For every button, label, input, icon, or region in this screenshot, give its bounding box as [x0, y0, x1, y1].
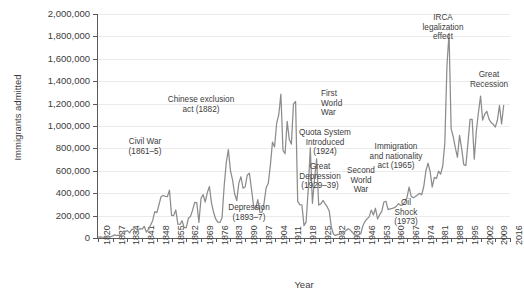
- annotation-irca-effect: IRCA legalization effect: [415, 13, 471, 42]
- y-tick-label: 0: [14, 233, 90, 242]
- annotation-quota-system: Quota System Introduced (1924): [293, 128, 357, 157]
- y-tick-label: 2,000,000: [14, 9, 90, 18]
- plot-area: 0200,000400,000600,000800,0001,000,0001,…: [98, 14, 510, 238]
- y-tick-label: 1,600,000: [14, 54, 90, 63]
- y-tick-label: 1,800,000: [14, 31, 90, 40]
- x-tick: [481, 238, 482, 242]
- immigration-chart-figure: Immigrants admitted Year 0200,000400,000…: [0, 0, 524, 297]
- x-tick: [304, 238, 305, 242]
- immigrants-admitted-line: [98, 14, 510, 238]
- y-tick-label: 400,000: [14, 188, 90, 197]
- x-tick: [142, 238, 143, 242]
- annotation-chinese-exclusion: Chinese exclusion act (1882): [155, 95, 247, 114]
- x-tick: [113, 238, 114, 242]
- x-tick: [319, 238, 320, 242]
- x-tick: [333, 238, 334, 242]
- x-tick: [407, 238, 408, 242]
- y-tick-label: 1,400,000: [14, 76, 90, 85]
- x-tick: [98, 238, 99, 242]
- x-tick: [260, 238, 261, 242]
- annotation-great-depression: Great Depression (1929–39): [296, 162, 344, 191]
- annotation-civil-war: Civil War (1861–5): [113, 137, 177, 156]
- x-tick: [172, 238, 173, 242]
- x-tick: [216, 238, 217, 242]
- x-tick: [436, 238, 437, 242]
- x-tick: [230, 238, 231, 242]
- x-tick: [451, 238, 452, 242]
- y-tick-label: 200,000: [14, 211, 90, 220]
- y-tick-label: 1,000,000: [14, 121, 90, 130]
- x-tick: [348, 238, 349, 242]
- x-tick-label: 2016: [514, 225, 524, 245]
- y-tick-label: 800,000: [14, 143, 90, 152]
- annotation-depression-1893: Depression (1893–7): [222, 203, 276, 222]
- x-tick: [127, 238, 128, 242]
- annotation-oil-shock: Oil Shock (1973): [391, 198, 421, 227]
- annotation-great-recession: Great Recession: [466, 70, 512, 89]
- x-tick: [466, 238, 467, 242]
- x-tick: [275, 238, 276, 242]
- x-tick: [201, 238, 202, 242]
- x-tick: [157, 238, 158, 242]
- annotation-immigration-act-1965: Immigration and nationality act (1965): [362, 142, 430, 171]
- x-tick: [363, 238, 364, 242]
- x-tick: [422, 238, 423, 242]
- x-tick: [186, 238, 187, 242]
- x-tick: [495, 238, 496, 242]
- x-axis-title: Year: [98, 279, 510, 290]
- x-tick: [289, 238, 290, 242]
- y-tick-label: 600,000: [14, 166, 90, 175]
- x-tick: [378, 238, 379, 242]
- y-tick-label: 1,200,000: [14, 99, 90, 108]
- x-tick: [245, 238, 246, 242]
- x-tick: [510, 238, 511, 242]
- x-tick: [392, 238, 393, 242]
- annotation-first-world-war: First World War: [321, 89, 355, 118]
